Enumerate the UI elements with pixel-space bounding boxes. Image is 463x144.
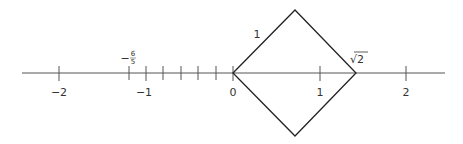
tick-label-neg1: −1: [136, 86, 152, 99]
tick-label-2: 2: [403, 86, 410, 99]
tick-label-0: 0: [230, 86, 237, 99]
label-neg-six-fifths: − 6 5: [120, 50, 136, 66]
label-sqrt2: √2: [350, 53, 364, 66]
number-line-diagram: −2 −1 0 1 2 − 6 5 √2 1: [0, 0, 463, 144]
side-length-label: 1: [254, 28, 261, 41]
svg-text:−: −: [120, 52, 129, 65]
svg-text:5: 5: [131, 58, 135, 66]
tick-label-1: 1: [317, 86, 324, 99]
tick-label-neg2: −2: [51, 86, 67, 99]
svg-text:6: 6: [131, 50, 136, 58]
